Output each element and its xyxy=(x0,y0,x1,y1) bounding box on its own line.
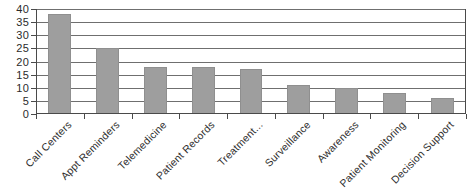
bar-series xyxy=(36,9,466,114)
bar[interactable] xyxy=(287,85,310,114)
y-axis-tick-labels: 0510152025303540 xyxy=(0,9,29,114)
x-axis-tick-mark xyxy=(466,114,467,119)
x-axis-tick-label: Call Centers xyxy=(23,119,73,169)
y-axis-tick-label: 20 xyxy=(16,56,29,67)
x-axis-tick-label: Surveillance xyxy=(263,119,313,169)
bar[interactable] xyxy=(48,14,71,114)
y-axis-tick-label: 30 xyxy=(16,30,29,41)
bar[interactable] xyxy=(192,67,215,114)
plot-area xyxy=(36,9,466,114)
bar-category xyxy=(132,9,180,114)
bar-category xyxy=(84,9,132,114)
y-axis-tick-label: 10 xyxy=(16,82,29,93)
y-axis-tick-label: 25 xyxy=(16,43,29,54)
y-axis-tick-label: 5 xyxy=(23,95,29,106)
y-axis-tick-label: 0 xyxy=(23,109,29,120)
bar[interactable] xyxy=(144,67,167,114)
bar[interactable] xyxy=(240,69,263,114)
y-axis-tick-label: 15 xyxy=(16,69,29,80)
x-axis-tick-label: Treatment... xyxy=(216,119,265,168)
x-axis-tick-labels: Call CentersAppt RemindersTelemedicinePa… xyxy=(36,119,466,196)
bar[interactable] xyxy=(383,93,406,114)
bar-category xyxy=(275,9,323,114)
bar-category xyxy=(370,9,418,114)
bar-category xyxy=(418,9,466,114)
bar[interactable] xyxy=(335,88,358,114)
bar[interactable] xyxy=(96,48,119,114)
bar-category xyxy=(227,9,275,114)
bar-category xyxy=(323,9,371,114)
x-axis-tick-label: Awareness xyxy=(315,119,360,164)
y-axis-tick-label: 35 xyxy=(16,17,29,28)
x-axis-tick-label: Telemedicine xyxy=(116,119,168,171)
bar-category xyxy=(179,9,227,114)
bar-chart: 0510152025303540 Call CentersAppt Remind… xyxy=(0,0,473,196)
bar[interactable] xyxy=(431,98,454,114)
y-axis-tick-label: 40 xyxy=(16,4,29,15)
bar-category xyxy=(36,9,84,114)
